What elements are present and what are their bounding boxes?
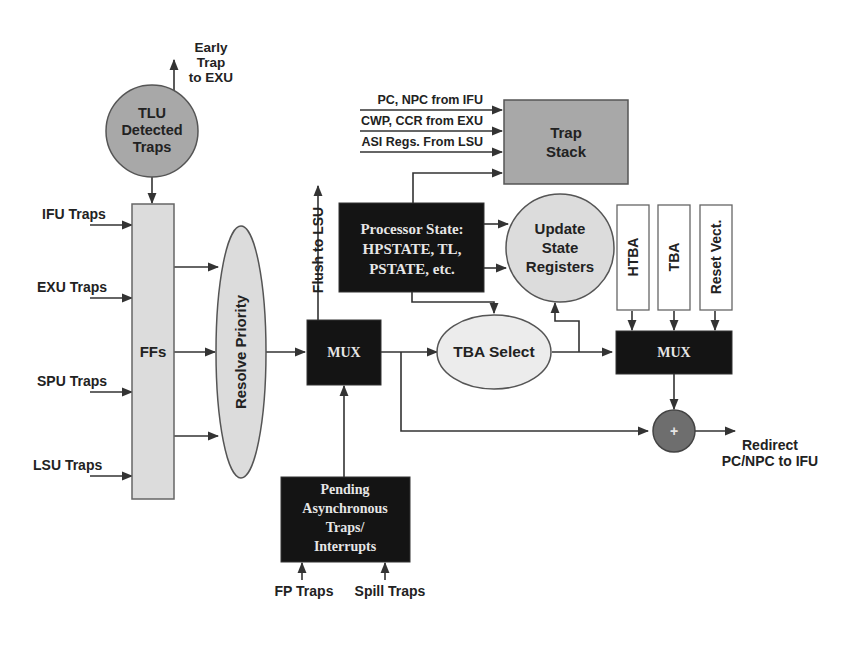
ifu-traps-label: IFU Traps (42, 206, 106, 222)
pending-async-traps-node: PendingAsynchronousTraps/Interrupts (281, 477, 410, 562)
tba-node: TBA (658, 205, 690, 310)
htba-node: HTBA (617, 205, 649, 310)
spill-traps-label: Spill Traps (355, 583, 426, 599)
svg-text:Reset Vect.: Reset Vect. (708, 220, 724, 295)
svg-text:MUX: MUX (327, 345, 360, 360)
tba-select-node: TBA Select (437, 315, 551, 389)
svg-text:HTBA: HTBA (625, 238, 641, 277)
redirect-label: RedirectPC/NPC to IFU (722, 437, 818, 469)
update-state-registers-node: UpdateStateRegisters (506, 194, 614, 302)
pstate-to-trap-stack-arrow (413, 173, 502, 203)
resolve-priority-node: Resolve Priority (216, 226, 266, 478)
svg-text:MUX: MUX (657, 345, 690, 360)
trap-logic-diagram: EarlyTrapto EXU IFU Traps EXU Traps SPU … (0, 0, 851, 661)
adder-node: + (653, 410, 695, 452)
lsu-traps-label: LSU Traps (33, 457, 102, 473)
processor-state-node: Processor State:HPSTATE, TL,PSTATE, etc. (339, 203, 484, 292)
trap-stack-node: TrapStack (504, 100, 628, 184)
tlu-detected-traps-node: TLUDetectedTraps (106, 85, 198, 177)
reset-vect-node: Reset Vect. (700, 205, 732, 310)
cwp-ccr-label: CWP, CCR from EXU (361, 114, 483, 128)
asi-regs-label: ASI Regs. From LSU (361, 135, 483, 149)
svg-text:Processor State:HPSTATE, TL,PS: Processor State:HPSTATE, TL,PSTATE, etc. (360, 221, 463, 277)
mux-2-node: MUX (616, 331, 732, 374)
svg-text:Resolve Priority: Resolve Priority (232, 294, 249, 409)
svg-text:FFs: FFs (140, 343, 167, 360)
to-update-state-arrow (555, 303, 579, 352)
flush-label: Flush to LSU (310, 207, 326, 293)
early-trap-label: EarlyTrapto EXU (189, 40, 233, 85)
pc-npc-label: PC, NPC from IFU (377, 93, 483, 107)
fp-traps-label: FP Traps (275, 583, 334, 599)
svg-text:TBA Select: TBA Select (453, 343, 534, 360)
pstate-to-tba-select-arrow (412, 292, 494, 313)
ffs-node: FFs (132, 204, 174, 499)
svg-text:+: + (670, 423, 678, 439)
exu-traps-label: EXU Traps (37, 279, 107, 295)
spu-traps-label: SPU Traps (37, 373, 107, 389)
svg-text:TBA: TBA (666, 243, 682, 272)
mux-1-node: MUX (307, 320, 381, 385)
